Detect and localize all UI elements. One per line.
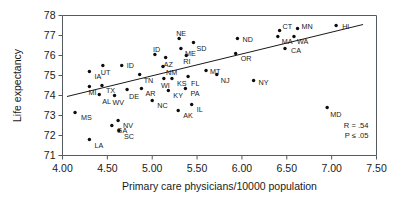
- data-point-label: ID: [153, 45, 160, 54]
- data-point-label: MA: [282, 37, 293, 46]
- data-point-label: OR: [241, 54, 252, 63]
- data-point-label: LA: [94, 141, 103, 150]
- data-point-label: MI: [88, 88, 96, 97]
- data-point-label: SD: [196, 44, 206, 53]
- data-point: [120, 64, 123, 67]
- data-point: [186, 75, 189, 78]
- data-point: [116, 119, 119, 122]
- data-point: [325, 106, 328, 109]
- data-point: [190, 103, 193, 106]
- data-point-label: MD: [330, 110, 341, 119]
- data-point: [98, 93, 101, 96]
- data-point: [252, 79, 255, 82]
- data-point-label: TX: [106, 86, 115, 95]
- data-point-label: KS: [177, 79, 187, 88]
- data-point-labels-layer: MSIAMILAUTTXALGANVWVSCIDDETNARIDNCWINMAZ…: [81, 22, 349, 150]
- y-axis-title: Life expectancy: [11, 48, 23, 122]
- data-point: [179, 47, 182, 50]
- data-point-label: DE: [129, 92, 139, 101]
- stat-annotation-line: P ≤ .05: [345, 131, 369, 140]
- data-point: [204, 69, 207, 72]
- x-axis: 4.004.505.005.506.006.507.007.50: [52, 156, 387, 174]
- y-axis-tick-label: 78: [44, 9, 56, 21]
- data-point-label: SC: [124, 132, 134, 141]
- y-axis-tick-label: 76: [44, 49, 56, 61]
- data-point: [88, 70, 91, 73]
- x-axis-tick-label: 4.50: [97, 162, 118, 174]
- data-point-label: NC: [157, 101, 167, 110]
- data-point-label: NE: [176, 29, 186, 38]
- x-axis-tick-label: 6.50: [277, 162, 298, 174]
- data-point-label: AZ: [164, 60, 174, 69]
- y-axis-tick-label: 71: [44, 149, 56, 161]
- chart-canvas: 7172737475767778 4.004.505.005.506.006.5…: [0, 0, 410, 199]
- data-point-label: UT: [101, 68, 111, 77]
- data-point-label: WI: [161, 81, 170, 90]
- data-point: [276, 35, 279, 38]
- data-point: [73, 111, 76, 114]
- data-point-label: NM: [166, 68, 177, 77]
- data-point: [140, 87, 143, 90]
- x-axis-tick-label: 7.50: [366, 162, 387, 174]
- data-point: [170, 77, 173, 80]
- data-point: [177, 109, 180, 112]
- data-point-label: ND: [242, 35, 252, 44]
- data-point-label: CT: [283, 22, 293, 31]
- data-point: [151, 99, 154, 102]
- scatter-chart-figure: 7172737475767778 4.004.505.005.506.006.5…: [0, 0, 410, 199]
- data-point: [292, 35, 295, 38]
- data-point-label: NJ: [221, 76, 230, 85]
- data-point-label: CA: [291, 46, 301, 55]
- data-point: [283, 47, 286, 50]
- x-axis-tick-label: 5.00: [142, 162, 163, 174]
- data-point-label: HI: [342, 22, 349, 31]
- statistics-annotation: R = .54P ≤ .05: [344, 121, 369, 140]
- data-point: [192, 41, 195, 44]
- data-point-label: AK: [183, 111, 193, 120]
- data-point: [138, 73, 141, 76]
- data-point-label: KY: [173, 91, 183, 100]
- y-axis-tick-label: 77: [44, 29, 56, 41]
- data-point-label: TN: [144, 76, 154, 85]
- data-point-label: NY: [259, 78, 269, 87]
- y-axis-tick-label: 73: [44, 109, 56, 121]
- data-point: [88, 138, 91, 141]
- data-point-label: MS: [81, 113, 92, 122]
- y-axis-tick-label: 75: [44, 69, 56, 81]
- x-axis-title: Primary care physicians/10000 population: [122, 180, 317, 192]
- y-axis-tick-label: 74: [44, 89, 56, 101]
- data-point-label: FL: [191, 79, 199, 88]
- data-point-label: IL: [197, 105, 203, 114]
- data-point-label: MT: [210, 67, 221, 76]
- data-point-label: AL: [102, 97, 111, 106]
- x-axis-tick-label: 7.00: [321, 162, 342, 174]
- stat-annotation-line: R = .54: [344, 121, 369, 130]
- data-point: [236, 37, 239, 40]
- x-axis-tick-label: 6.00: [232, 162, 253, 174]
- data-point-label: RI: [183, 57, 190, 66]
- x-axis-tick-label: 5.50: [187, 162, 208, 174]
- data-point-label: WA: [297, 37, 309, 46]
- y-axis: 7172737475767778: [44, 9, 63, 161]
- data-point-label: MN: [302, 22, 313, 31]
- data-point: [100, 84, 103, 87]
- data-point-label: WV: [113, 98, 125, 107]
- data-point: [278, 29, 281, 32]
- data-point: [234, 52, 237, 55]
- data-point-label: NV: [123, 121, 133, 130]
- data-point-label: AR: [145, 89, 155, 98]
- data-point-label: PA: [190, 89, 199, 98]
- data-point: [110, 124, 113, 127]
- data-point: [296, 27, 299, 30]
- x-axis-tick-label: 4.00: [52, 162, 73, 174]
- data-point: [334, 24, 337, 27]
- y-axis-tick-label: 72: [44, 129, 56, 141]
- data-point-label: ID: [127, 61, 134, 70]
